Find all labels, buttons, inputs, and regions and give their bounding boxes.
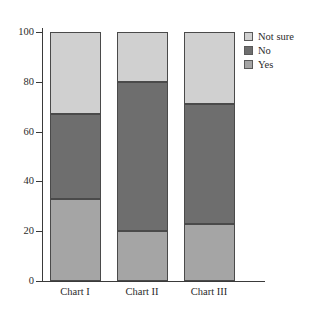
- y-tick-60: [36, 132, 43, 133]
- y-tick-20: [36, 231, 43, 232]
- segment-no[interactable]: [117, 82, 168, 231]
- legend-swatch-not-sure-icon: [244, 32, 253, 41]
- segment-not-sure[interactable]: [117, 32, 168, 82]
- segment-yes[interactable]: [184, 224, 235, 281]
- legend-label-yes: Yes: [258, 59, 273, 70]
- segment-yes[interactable]: [117, 231, 168, 281]
- y-tick-label-100: 100: [0, 27, 34, 37]
- x-axis-label-chart-iii: Chart III: [164, 286, 254, 298]
- segment-not-sure[interactable]: [50, 32, 101, 114]
- legend-item-no[interactable]: No: [244, 44, 320, 57]
- legend-label-no: No: [258, 45, 271, 56]
- y-tick-label-0: 0: [0, 276, 34, 286]
- segment-no[interactable]: [184, 104, 235, 224]
- legend-swatch-yes-icon: [244, 60, 253, 69]
- legend-item-not-sure[interactable]: Not sure: [244, 30, 320, 43]
- legend: Not sure No Yes: [244, 30, 320, 72]
- y-tick-80: [36, 82, 43, 83]
- y-tick-label-40: 40: [0, 176, 34, 186]
- legend-item-yes[interactable]: Yes: [244, 58, 320, 71]
- bar-chart-ii[interactable]: [117, 32, 168, 281]
- y-tick-label-20: 20: [0, 226, 34, 236]
- stacked-bar-chart: 100 80 60 40 20 0: [0, 0, 321, 313]
- legend-label-not-sure: Not sure: [258, 31, 294, 42]
- y-axis-line: [42, 28, 43, 282]
- y-tick-40: [36, 181, 43, 182]
- y-tick-label-60: 60: [0, 127, 34, 137]
- y-tick-0: [36, 281, 43, 282]
- bar-stack: [117, 32, 168, 281]
- legend-swatch-no-icon: [244, 46, 253, 55]
- bar-chart-i[interactable]: [50, 32, 101, 281]
- segment-no[interactable]: [50, 114, 101, 199]
- bar-stack: [184, 32, 235, 281]
- y-tick-100: [36, 32, 43, 33]
- bar-stack: [50, 32, 101, 281]
- segment-not-sure[interactable]: [184, 32, 235, 104]
- bar-chart-iii[interactable]: [184, 32, 235, 281]
- x-axis-line: [42, 281, 265, 282]
- y-tick-label-80: 80: [0, 77, 34, 87]
- segment-yes[interactable]: [50, 199, 101, 281]
